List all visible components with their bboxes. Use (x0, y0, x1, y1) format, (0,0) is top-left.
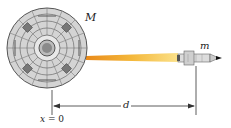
label-small-mass: m (200, 41, 209, 51)
label-large-mass: M (85, 12, 96, 23)
label-origin: x = 0 (40, 115, 64, 124)
label-origin-eq: = 0 (45, 114, 64, 124)
station-disk (7, 8, 87, 88)
arrowhead-left (53, 104, 60, 109)
diagram-canvas (0, 0, 231, 128)
exhaust-plume (86, 53, 178, 62)
label-distance: d (121, 100, 131, 110)
rocket (177, 51, 222, 65)
arrowhead-right (188, 104, 195, 109)
